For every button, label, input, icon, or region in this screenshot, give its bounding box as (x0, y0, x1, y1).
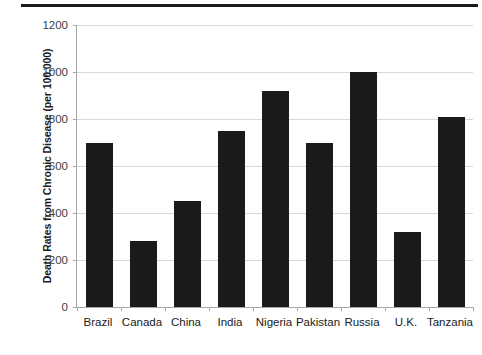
y-tick-mark (73, 25, 77, 26)
x-tick-label: Russia (344, 316, 379, 328)
y-tick-label: 800 (24, 113, 68, 125)
x-tick-label: Pakistan (296, 316, 340, 328)
x-tick-mark (385, 307, 386, 311)
gridline (77, 72, 473, 73)
y-tick-mark (73, 260, 77, 261)
y-tick-label: 400 (24, 207, 68, 219)
x-tick-label: India (218, 316, 243, 328)
y-tick-label: 200 (24, 254, 68, 266)
x-tick-label: China (171, 316, 201, 328)
x-tick-label: Nigeria (256, 316, 292, 328)
bar (174, 201, 201, 307)
y-tick-mark (73, 166, 77, 167)
y-tick-mark (73, 72, 77, 73)
bar (306, 143, 333, 308)
x-tick-mark (77, 307, 78, 311)
bar (262, 91, 289, 307)
gridline (77, 25, 473, 26)
x-tick-mark (341, 307, 342, 311)
bar (438, 117, 465, 307)
y-tick-mark (73, 213, 77, 214)
bar (394, 232, 421, 307)
gridline (77, 307, 473, 308)
chart-figure: Death Rates from Chronic Disease (per 10… (0, 0, 482, 355)
x-tick-mark (473, 307, 474, 311)
x-tick-mark (429, 307, 430, 311)
bar (86, 143, 113, 308)
x-tick-mark (165, 307, 166, 311)
y-tick-label: 600 (24, 160, 68, 172)
y-tick-label: 0 (24, 301, 68, 313)
bar (350, 72, 377, 307)
top-rule-divider (21, 4, 478, 7)
x-tick-label: U.K. (395, 316, 417, 328)
x-tick-label: Canada (122, 316, 162, 328)
bar (130, 241, 157, 307)
x-tick-label: Brazil (84, 316, 113, 328)
x-tick-mark (121, 307, 122, 311)
x-tick-mark (253, 307, 254, 311)
y-tick-mark (73, 119, 77, 120)
y-tick-label: 1000 (24, 66, 68, 78)
x-tick-mark (209, 307, 210, 311)
x-tick-label: Tanzania (427, 316, 473, 328)
x-tick-mark (297, 307, 298, 311)
y-tick-label: 1200 (24, 19, 68, 31)
bar (218, 131, 245, 307)
plot-area (76, 25, 473, 307)
